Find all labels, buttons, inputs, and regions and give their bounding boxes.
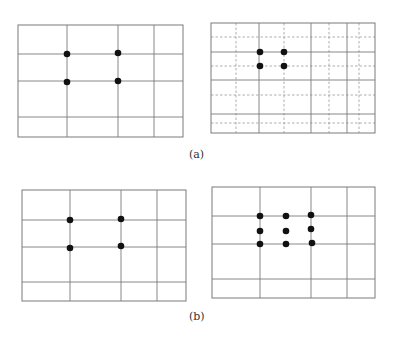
focus-point-dot	[118, 243, 125, 250]
figure-canvas	[0, 0, 396, 337]
focus-point-dot	[257, 49, 264, 56]
focus-point-dot	[283, 213, 290, 220]
focus-point-dot	[281, 63, 288, 70]
focus-point-dot	[281, 49, 288, 56]
focus-point-dot	[115, 78, 122, 85]
focus-point-dot	[64, 51, 71, 58]
focus-point-dot	[283, 228, 290, 235]
focus-point-dot	[257, 213, 264, 220]
focus-point-dot	[67, 217, 74, 224]
focus-point-dot	[64, 79, 71, 86]
grid-frame	[22, 190, 186, 301]
focus-point-dot	[115, 50, 122, 57]
focus-point-dot	[309, 240, 316, 247]
focus-point-dot	[67, 245, 74, 252]
focus-point-dot	[118, 216, 125, 223]
focus-point-dot	[308, 226, 315, 233]
grid-frame	[212, 187, 375, 298]
panel-b-left-grid	[22, 190, 186, 301]
focus-point-dot	[283, 241, 290, 248]
caption-b: (b)	[189, 310, 205, 323]
panel-b-right-grid	[212, 187, 375, 298]
focus-point-dot	[257, 63, 264, 70]
focus-point-dot	[308, 212, 315, 219]
caption-a: (a)	[189, 148, 204, 161]
focus-point-dot	[257, 241, 264, 248]
focus-point-dot	[257, 228, 264, 235]
panel-a-left-grid	[18, 25, 183, 137]
panel-a-right-grid	[211, 23, 375, 133]
